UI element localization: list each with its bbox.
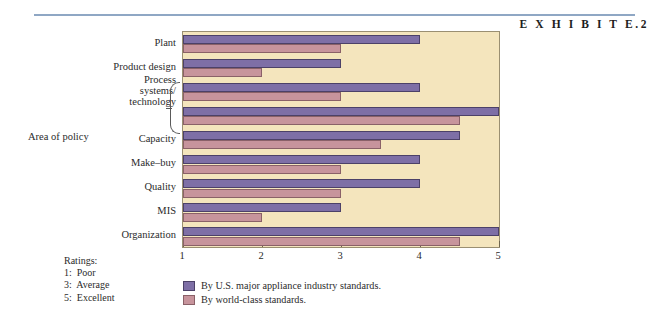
bar-group: [183, 104, 499, 128]
bar-us-standard: [183, 155, 420, 164]
x-axis-tick-label: 1: [179, 250, 184, 261]
x-axis-tick: [499, 241, 500, 247]
bar-us-standard: [183, 59, 341, 68]
y-axis-label: Organization: [121, 229, 176, 240]
ratings-item-5: 5: Excellent: [64, 292, 115, 304]
header-rule: [34, 14, 635, 16]
bar-world-class: [183, 165, 341, 174]
plot-area: [182, 31, 500, 248]
legend-swatch-us-icon: [183, 281, 195, 291]
bar-us-standard: [183, 203, 341, 212]
legend-label-us: By U.S. major appliance industry standar…: [201, 279, 381, 293]
bar-world-class: [183, 213, 262, 222]
legend-row-world: By world-class standards.: [183, 293, 381, 307]
ratings-item-1: 1: Poor: [64, 267, 115, 279]
bar-world-class: [183, 44, 341, 53]
y-axis-label: Quality: [145, 181, 177, 192]
legend-row-us: By U.S. major appliance industry standar…: [183, 279, 381, 293]
bar-group: [183, 153, 499, 177]
bar-world-class: [183, 189, 341, 198]
y-axis-label: Plant: [154, 37, 176, 48]
bar-us-standard: [183, 83, 420, 92]
bar-us-standard: [183, 131, 460, 140]
bar-group: [183, 201, 499, 225]
process-systems-brace: [170, 82, 180, 134]
y-axis-label: Capacity: [139, 133, 176, 144]
bar-us-standard: [183, 35, 420, 44]
bar-world-class: [183, 237, 460, 246]
x-axis-tick-label: 4: [416, 250, 421, 261]
exhibit-title: E X H I B I T E.2: [520, 18, 649, 30]
ratings-key: Ratings: 1: Poor 3: Average 5: Excellent: [64, 255, 115, 304]
x-axis-tick-label: 5: [495, 250, 500, 261]
bar-group: [183, 32, 499, 56]
bar-group: [183, 56, 499, 80]
chart-legend: By U.S. major appliance industry standar…: [183, 279, 381, 307]
y-axis-title: Area of policy: [28, 131, 89, 142]
x-axis-tick-label: 3: [337, 250, 342, 261]
bar-group: [183, 128, 499, 152]
bar-world-class: [183, 140, 381, 149]
legend-label-world: By world-class standards.: [201, 293, 306, 307]
y-axis-label: Make–buy: [131, 157, 176, 168]
bar-us-standard: [183, 179, 420, 188]
y-axis-label: Product design: [113, 61, 176, 72]
bar-us-standard: [183, 107, 499, 116]
legend-swatch-world-icon: [183, 295, 195, 305]
bar-world-class: [183, 116, 460, 125]
bar-world-class: [183, 92, 341, 101]
bar-us-standard: [183, 227, 499, 236]
exhibit-figure: E X H I B I T E.2 PlantProduct designPro…: [0, 0, 669, 323]
y-axis-label: MIS: [157, 205, 176, 216]
y-axis-label: Process systems/ technology: [129, 74, 176, 107]
bar-group: [183, 225, 499, 249]
bar-group: [183, 80, 499, 104]
ratings-heading: Ratings:: [64, 255, 115, 267]
ratings-item-3: 3: Average: [64, 279, 115, 291]
bar-world-class: [183, 68, 262, 77]
x-axis-tick-label: 2: [258, 250, 263, 261]
bar-group: [183, 177, 499, 201]
